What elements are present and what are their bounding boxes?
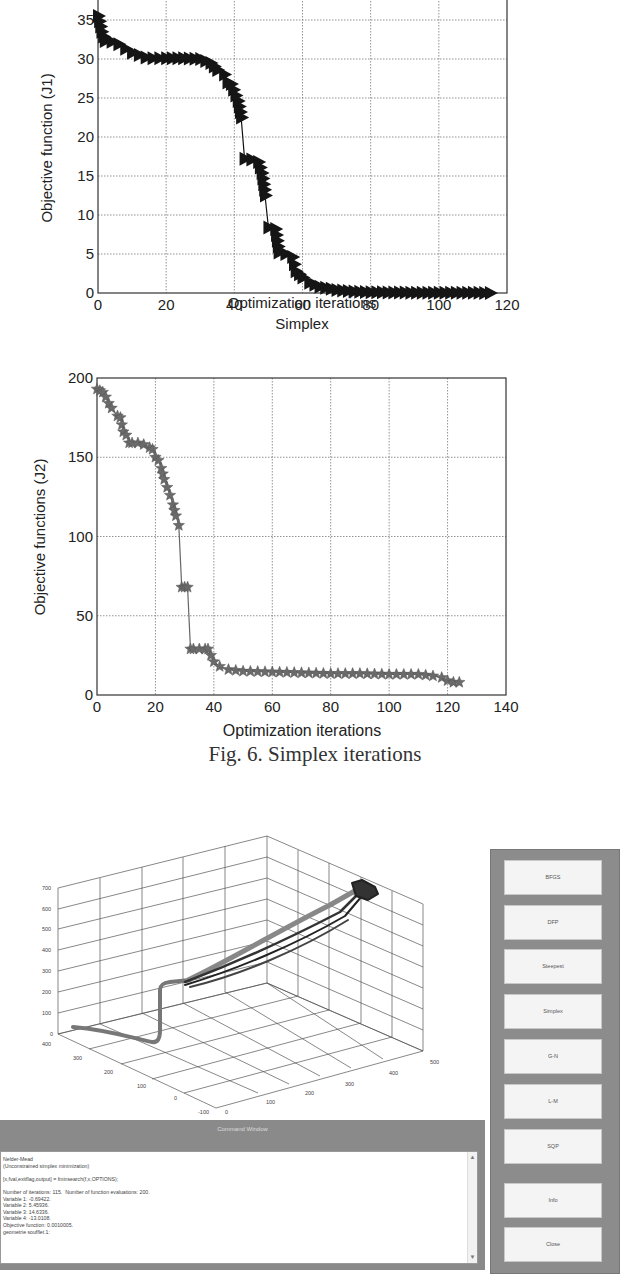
command-window-scrollbar[interactable]: ▲ ▼ (467, 1152, 477, 1263)
svg-text:15: 15 (77, 167, 94, 184)
chart-j2-xlabel: Optimization iterations (223, 722, 381, 739)
svg-text:120: 120 (435, 698, 460, 715)
svg-text:100: 100 (137, 1083, 146, 1089)
svg-text:700: 700 (42, 885, 51, 891)
svg-text:20: 20 (77, 128, 94, 145)
svg-text:120: 120 (494, 296, 519, 313)
svg-text:30: 30 (77, 50, 94, 67)
svg-text:0: 0 (174, 1095, 177, 1101)
svg-text:100: 100 (42, 1010, 51, 1016)
scroll-up-arrow-icon[interactable]: ▲ (469, 1154, 476, 1161)
sqp-button[interactable]: SQP (504, 1129, 602, 1164)
chart-j1-markers (93, 9, 498, 300)
svg-text:300: 300 (345, 1081, 354, 1087)
levenberg-marquardt-button[interactable]: L-M (504, 1084, 602, 1119)
plot-3d-trajectory (73, 880, 378, 1042)
command-window-title: Command Window (0, 1120, 485, 1152)
svg-text:300: 300 (42, 968, 51, 974)
svg-text:20: 20 (147, 698, 164, 715)
chart-j2-tick-labels: 020406080100120140050100150200 (68, 369, 519, 715)
chart-j2-markers (91, 383, 465, 687)
plot-3d: 700 600 500 400 300 200 100 0 400 300 20… (0, 825, 490, 1120)
svg-text:500: 500 (430, 1059, 439, 1065)
chart-j2-ylabel: Objective functions (J2) (31, 459, 48, 616)
command-window-output[interactable]: Nelder-Mead (Unconstrained simplex minim… (0, 1151, 478, 1264)
bfgs-button[interactable]: BFGS (504, 860, 602, 895)
svg-text:0: 0 (93, 698, 101, 715)
command-window: Command Window Nelder-Mead (Unconstraine… (0, 1120, 485, 1270)
chart-j2-title: Simplex (275, 315, 329, 332)
svg-text:35: 35 (77, 11, 94, 28)
svg-text:150: 150 (68, 448, 93, 465)
chart-j2-grid (97, 378, 506, 695)
chart-j1: 02040608010012005101520253035 Optimizati… (0, 0, 630, 335)
dfp-button[interactable]: DFP (504, 905, 602, 940)
svg-text:200: 200 (42, 989, 51, 995)
steepest-button[interactable]: Steepest (504, 949, 602, 984)
svg-text:-100: -100 (198, 1109, 209, 1115)
svg-text:600: 600 (42, 906, 51, 912)
svg-text:0: 0 (225, 1109, 228, 1115)
svg-text:500: 500 (42, 926, 51, 932)
simplex-button[interactable]: Simplex (504, 994, 602, 1029)
svg-text:100: 100 (266, 1099, 275, 1105)
svg-text:20: 20 (158, 296, 175, 313)
chart-j1-ylabel: Objective function (J1) (38, 73, 55, 222)
svg-text:0: 0 (85, 686, 93, 703)
svg-text:400: 400 (389, 1070, 398, 1076)
svg-text:100: 100 (68, 528, 93, 545)
svg-text:5: 5 (86, 245, 94, 262)
svg-text:400: 400 (42, 1041, 51, 1047)
svg-text:0: 0 (94, 296, 102, 313)
svg-text:60: 60 (264, 698, 281, 715)
svg-text:0: 0 (50, 1031, 53, 1037)
svg-text:200: 200 (305, 1090, 314, 1096)
svg-text:25: 25 (77, 89, 94, 106)
svg-text:40: 40 (206, 698, 223, 715)
close-button[interactable]: Close (504, 1227, 602, 1262)
chart-j1-xlabel: Optimization iterations (228, 294, 376, 311)
svg-text:200: 200 (68, 369, 93, 386)
svg-text:400: 400 (42, 947, 51, 953)
chart-j2: 020406080100120140050100150200 Optimizat… (0, 335, 630, 740)
chart-j2-series-line (97, 389, 459, 682)
info-button[interactable]: Info (504, 1183, 602, 1218)
method-button-panel: BFGS DFP Steepest Simplex G-N L-M SQP In… (490, 849, 620, 1274)
svg-text:0: 0 (86, 284, 94, 301)
gauss-newton-button[interactable]: G-N (504, 1039, 602, 1074)
scroll-down-arrow-icon[interactable]: ▼ (469, 1254, 476, 1261)
svg-text:200: 200 (104, 1069, 113, 1075)
svg-text:300: 300 (73, 1055, 82, 1061)
svg-text:100: 100 (377, 698, 402, 715)
chart-j1-grid (98, 0, 507, 293)
svg-text:50: 50 (76, 607, 93, 624)
figure-caption: Fig. 6. Simplex iterations (0, 742, 630, 767)
plot-3d-tick-labels: 700 600 500 400 300 200 100 0 400 300 20… (42, 885, 439, 1115)
svg-text:10: 10 (77, 206, 94, 223)
svg-text:140: 140 (493, 698, 518, 715)
svg-text:80: 80 (322, 698, 339, 715)
command-window-text: Nelder-Mead (Unconstrained simplex minim… (3, 1156, 150, 1235)
